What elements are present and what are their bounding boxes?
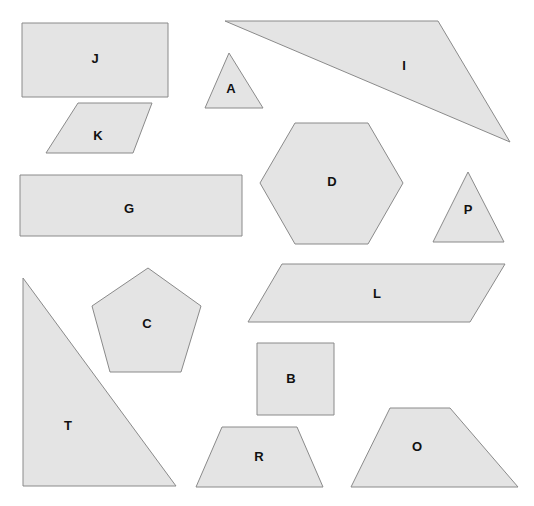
shape-p-label: P — [464, 202, 473, 217]
shape-j[interactable]: J — [22, 23, 168, 97]
shape-d-label: D — [327, 174, 336, 189]
shape-j-label: J — [91, 51, 98, 66]
shape-l-label: L — [373, 286, 381, 301]
shape-k-label: K — [93, 128, 103, 143]
shape-p[interactable]: P — [433, 172, 504, 242]
shape-g-label: G — [124, 201, 134, 216]
shapes-group: JAIKDGPLCBTRO — [20, 21, 518, 487]
shape-o-outline[interactable] — [351, 408, 518, 487]
shapes-diagram-canvas: JAIKDGPLCBTRO — [0, 0, 534, 506]
shape-c-label: C — [142, 316, 152, 331]
shape-i-label: I — [402, 58, 406, 73]
shape-o-label: O — [412, 439, 422, 454]
shape-b-label: B — [286, 371, 295, 386]
shape-r-label: R — [254, 449, 264, 464]
shape-a-label: A — [226, 81, 236, 96]
shape-l[interactable]: L — [248, 264, 505, 322]
shape-g[interactable]: G — [20, 175, 242, 236]
shape-o[interactable]: O — [351, 408, 518, 487]
shape-t-label: T — [64, 418, 72, 433]
shape-r[interactable]: R — [196, 427, 323, 487]
shapes-svg: JAIKDGPLCBTRO — [0, 0, 534, 506]
shape-d[interactable]: D — [260, 123, 403, 244]
shape-b[interactable]: B — [257, 343, 334, 415]
shape-c[interactable]: C — [92, 268, 201, 372]
shape-k[interactable]: K — [46, 103, 152, 153]
shape-a[interactable]: A — [205, 53, 263, 108]
